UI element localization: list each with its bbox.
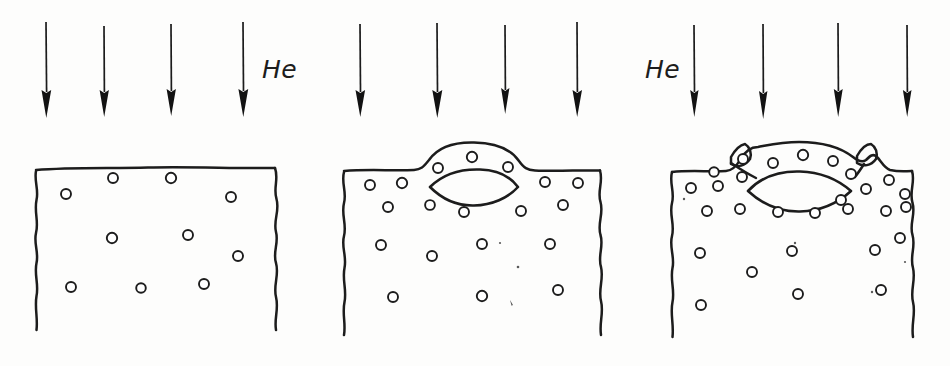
he-arrow [100,26,109,117]
material-block-outline-3-right [911,171,914,337]
helium-bubble [383,202,393,212]
helium-bubble [136,283,146,293]
he-arrow [759,24,767,119]
helium-bubble [737,172,747,182]
gas-label-he-right: He [645,55,680,84]
helium-bubble [768,158,778,168]
he-arrow [167,24,176,116]
blister-diagram-svg: He [0,0,950,366]
he-arrow [834,23,843,117]
he-arrow [903,25,912,117]
helium-bubble [686,183,696,193]
helium-bubble [895,233,905,243]
ink-speck [517,266,520,269]
he-arrow [42,22,52,118]
bubble-group-panel-2 [365,152,583,302]
he-arrow [573,22,583,117]
helium-bubble [553,285,563,295]
helium-bubble [545,239,555,249]
helium-bubble [843,204,853,214]
helium-bubble [183,230,193,240]
helium-bubble [503,162,513,172]
helium-bubble [876,285,886,295]
helium-bubble [376,240,386,250]
ink-speck [499,242,501,244]
helium-bubble [459,207,469,217]
arrow-group-panel-2 [356,22,583,118]
material-block-outline-3-left [671,172,673,337]
helium-bubble [747,267,757,277]
figure-canvas: He [0,0,950,366]
helium-bubble [365,180,375,190]
helium-bubble [861,184,871,194]
helium-bubble [798,150,808,160]
ink-speck [683,198,685,200]
helium-bubble [738,154,748,164]
helium-bubble [233,251,243,261]
panel-stage-2-blister [343,22,602,335]
material-block-outline-1 [35,171,37,330]
helium-bubble [61,189,71,199]
bubble-group-panel-3 [686,150,911,310]
helium-bubble [773,207,783,217]
helium-bubble [787,246,797,256]
helium-bubble [713,181,723,191]
helium-bubble [226,192,236,202]
ink-speck [510,300,513,306]
he-arrow [238,22,248,117]
helium-bubble [793,289,803,299]
helium-bubble [433,163,443,173]
lens-void-3 [748,171,851,211]
helium-bubble [199,279,209,289]
helium-bubble [516,206,526,216]
helium-bubble [709,167,719,177]
arrow-group-panel-1 [42,22,249,118]
helium-bubble [397,178,407,188]
helium-bubble [558,200,568,210]
he-arrow [690,25,698,117]
he-arrow [432,23,442,118]
helium-bubble [477,291,487,301]
ink-speck [794,242,796,244]
helium-bubble [836,195,846,205]
ink-speck [904,261,906,263]
helium-bubble [477,239,487,249]
helium-bubble [166,173,176,183]
material-block-outline-1-right [275,168,278,330]
helium-bubble [388,292,398,302]
helium-bubble [573,178,583,188]
helium-bubble [702,206,712,216]
material-block-outline-2-left [343,172,345,335]
helium-bubble [695,248,705,258]
helium-bubble [735,204,745,214]
gas-label-he-left: He [262,55,297,84]
helium-bubble [901,202,911,212]
he-arrow [356,24,366,117]
helium-bubble [427,251,437,261]
helium-bubble [900,189,910,199]
he-arrow [501,25,509,114]
panel-stage-3-blister-rupture: He [645,23,914,337]
helium-bubble [828,156,838,166]
helium-bubble [107,233,117,243]
helium-bubble [696,300,706,310]
material-block-outline-2-right [599,171,602,336]
helium-bubble [881,206,891,216]
helium-bubble [108,173,118,183]
ink-speck [871,291,873,293]
panel-stage-1-bubbles: He [35,22,297,330]
helium-bubble [870,245,880,255]
helium-bubble [884,175,894,185]
helium-bubble [66,282,76,292]
bubble-group-panel-1 [61,173,243,293]
helium-bubble [540,177,550,187]
lens-void-2 [430,169,518,205]
helium-bubble [425,200,435,210]
helium-bubble [467,152,477,162]
arrow-group-panel-3 [690,23,911,119]
helium-bubble [846,169,856,179]
material-block-surface-1 [36,167,275,170]
helium-bubble [810,208,820,218]
